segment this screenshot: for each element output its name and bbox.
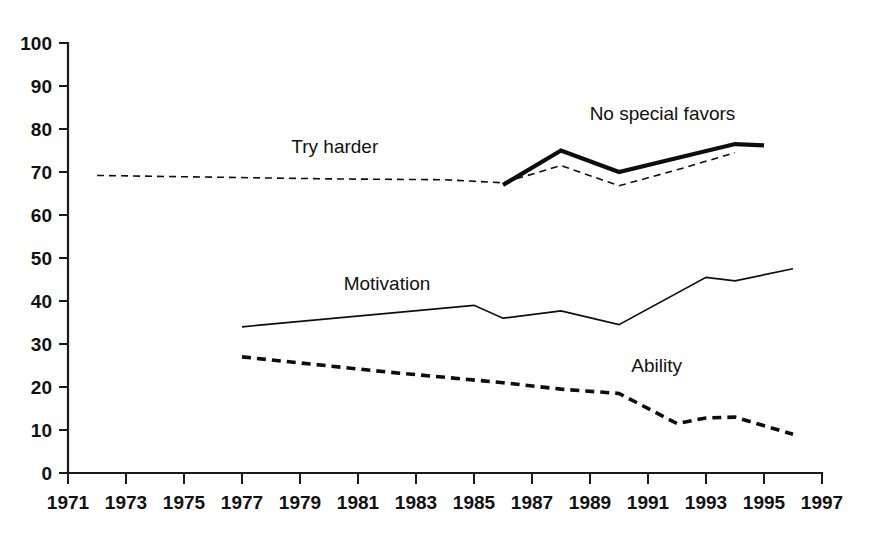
x-tick-label-1993: 1993	[685, 492, 727, 513]
x-tick-label-1977: 1977	[221, 492, 263, 513]
y-tick-label-50: 50	[31, 248, 52, 269]
y-tick-label-30: 30	[31, 334, 52, 355]
series-label-ability: Ability	[631, 355, 682, 376]
y-tick-label-10: 10	[31, 420, 52, 441]
x-tick-label-1979: 1979	[279, 492, 321, 513]
y-tick-label-0: 0	[41, 463, 52, 484]
x-tick-label-1975: 1975	[163, 492, 206, 513]
series-label-no-special-favors: No special favors	[590, 103, 736, 124]
x-tick-label-1981: 1981	[337, 492, 380, 513]
y-tick-label-40: 40	[31, 291, 52, 312]
series-label-try-harder: Try harder	[291, 136, 379, 157]
y-tick-label-90: 90	[31, 76, 52, 97]
series-label-motivation: Motivation	[344, 273, 431, 294]
x-tick-label-1987: 1987	[511, 492, 553, 513]
series-lines	[97, 144, 793, 434]
x-axis-ticks: 1971197319751977197919811983198519871989…	[47, 473, 843, 513]
x-tick-label-1989: 1989	[569, 492, 611, 513]
chart-container: 0102030405060708090100 19711973197519771…	[0, 0, 871, 534]
y-tick-label-60: 60	[31, 205, 52, 226]
series-line-no-special-favors	[503, 144, 764, 185]
line-chart: 0102030405060708090100 19711973197519771…	[0, 0, 871, 534]
y-axis-ticks: 0102030405060708090100	[20, 33, 68, 484]
y-tick-label-100: 100	[20, 33, 52, 54]
y-tick-label-70: 70	[31, 162, 52, 183]
x-tick-label-1971: 1971	[47, 492, 90, 513]
x-tick-label-1995: 1995	[743, 492, 786, 513]
x-tick-label-1973: 1973	[105, 492, 147, 513]
x-tick-label-1983: 1983	[395, 492, 437, 513]
series-line-motivation	[242, 269, 793, 327]
x-tick-label-1997: 1997	[801, 492, 843, 513]
y-tick-label-20: 20	[31, 377, 52, 398]
x-tick-label-1991: 1991	[627, 492, 670, 513]
x-tick-label-1985: 1985	[453, 492, 496, 513]
series-labels: Try harderNo special favorsMotivationAbi…	[291, 103, 735, 376]
series-line-ability	[242, 357, 793, 434]
y-tick-label-80: 80	[31, 119, 52, 140]
